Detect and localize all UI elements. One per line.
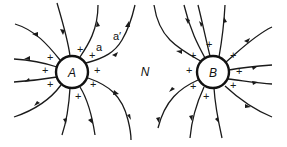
point-label-a: a [96,41,103,53]
svg-text:+: + [236,65,242,77]
sphere-b-label: B [209,66,217,80]
sphere-a-label: A [67,66,76,80]
svg-text:+: + [203,90,209,102]
svg-text:+: + [75,90,81,102]
field-lines-diagram: A + + + + + + + + B + + + + + + + + a a′… [0,0,287,147]
svg-text:+: + [186,64,192,76]
svg-text:+: + [190,80,196,92]
svg-text:+: + [94,64,100,76]
svg-text:+: + [230,49,236,61]
sphere-a: A [56,56,88,88]
svg-text:+: + [77,43,83,55]
point-label-a-prime: a′ [113,30,121,42]
svg-text:+: + [42,64,48,76]
svg-text:+: + [190,49,196,61]
svg-text:+: + [47,51,53,63]
svg-text:+: + [230,79,236,91]
svg-text:+: + [90,78,96,90]
sphere-b: B [197,56,229,88]
neutral-point-label: N [141,65,150,79]
svg-text:+: + [89,49,95,61]
svg-text:+: + [47,78,53,90]
svg-text:+: + [206,38,212,50]
